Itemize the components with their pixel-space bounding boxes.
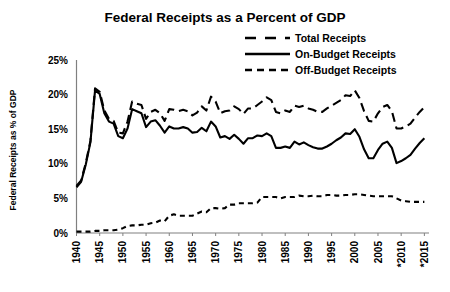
x-tick-label: 1965 [187, 241, 198, 264]
x-tick-label: 2005 [373, 241, 384, 264]
legend-label: On-Budget Receipts [295, 48, 396, 60]
y-tick-label: 15% [48, 124, 68, 135]
chart-title: Federal Receipts as a Percent of GDP [105, 10, 346, 25]
y-tick-label: 25% [48, 55, 68, 66]
x-tick-label: 2000 [349, 241, 360, 264]
y-axis-label: Federal Receipts as % of GDP [8, 89, 18, 210]
legend-label: Total Receipts [295, 32, 366, 44]
y-tick-label: 10% [48, 158, 68, 169]
x-tick-label: 1995 [326, 241, 337, 264]
x-tick-label: 1940 [71, 241, 82, 264]
x-tick-label: 1960 [164, 241, 175, 264]
y-tick-label: 20% [48, 89, 68, 100]
x-tick-label: 1955 [141, 241, 152, 264]
x-tick-label: *2015 [419, 241, 430, 268]
y-tick-label: 0% [54, 228, 69, 239]
x-tick-label: 1975 [233, 241, 244, 264]
x-tick-label: 1980 [257, 241, 268, 264]
x-tick-label: 1985 [280, 241, 291, 264]
x-tick-label: 1945 [94, 241, 105, 264]
federal-receipts-chart: Federal Receipts as a Percent of GDP Fed… [0, 0, 450, 292]
x-tick-label: 1990 [303, 241, 314, 264]
y-tick-label: 5% [54, 193, 69, 204]
x-tick-label: 1970 [210, 241, 221, 264]
legend-label: Off-Budget Receipts [295, 64, 397, 76]
x-tick-label: 1950 [117, 241, 128, 264]
x-tick-label: *2010 [396, 241, 407, 268]
